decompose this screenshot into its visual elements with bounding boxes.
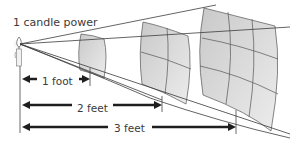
distance-label-2: 2 feet bbox=[75, 102, 110, 114]
distance-label-1: 1 foot bbox=[40, 75, 75, 87]
panel-3-feet bbox=[200, 8, 278, 131]
candle-power-label: 1 candle power bbox=[13, 17, 98, 29]
panel-2-feet bbox=[140, 22, 191, 104]
distance-label-3: 3 feet bbox=[112, 122, 147, 134]
candle-icon bbox=[12, 37, 26, 66]
